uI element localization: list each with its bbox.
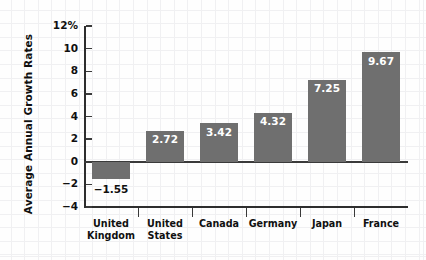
- y-axis-tick-label: 6: [38, 87, 78, 99]
- y-axis-tick-label: −2: [38, 177, 78, 189]
- y-axis-tick-mark: [86, 161, 92, 162]
- y-axis-tick-mark: [86, 71, 92, 72]
- y-axis-tick-label: −4: [38, 200, 78, 212]
- x-axis-tick-mark: [246, 208, 247, 217]
- y-axis-tick-label: 10: [38, 42, 78, 54]
- x-axis-category-label: United Kingdom: [84, 218, 138, 243]
- bar-value-label: 3.42: [192, 126, 246, 138]
- y-axis-tick-mark: [86, 25, 92, 26]
- bar-value-label: 2.72: [138, 133, 192, 145]
- zero-baseline: [84, 161, 408, 162]
- y-axis-tick-mark: [86, 138, 92, 139]
- x-axis-tick-mark: [192, 208, 193, 217]
- x-axis-category-label: United States: [138, 218, 192, 243]
- bar-value-label: 4.32: [246, 115, 300, 127]
- y-axis-tick-label: 0: [38, 155, 78, 167]
- y-axis-tick-label: 4: [38, 110, 78, 122]
- x-axis-category-label: Japan: [300, 218, 354, 230]
- chart-figure: Average Annual Growth Rates 12%1086420−2…: [0, 0, 426, 260]
- x-axis-tick-mark: [300, 208, 301, 217]
- bar-value-label: −1.55: [84, 183, 138, 195]
- bar-value-label: 7.25: [300, 82, 354, 94]
- y-axis-tick-mark: [86, 116, 92, 117]
- y-axis-tick-label: 2: [38, 132, 78, 144]
- y-axis-title: Average Annual Growth Rates: [22, 19, 36, 229]
- y-axis-tick-mark: [86, 206, 92, 207]
- y-axis-tick-label: 12%: [38, 19, 78, 31]
- y-axis-tick-label: 8: [38, 64, 78, 76]
- y-axis-tick-mark: [86, 93, 92, 94]
- x-axis-category-label: Germany: [246, 218, 300, 230]
- y-axis-tick-mark: [86, 48, 92, 49]
- x-axis-tick-mark: [354, 208, 355, 217]
- y-axis-tick-label-group: 12%1086420−2−4: [36, 0, 78, 260]
- bar[interactable]: [362, 52, 400, 161]
- x-axis-category-label: Canada: [192, 218, 246, 230]
- bar-value-label: 9.67: [354, 55, 408, 67]
- bar[interactable]: [92, 162, 130, 180]
- x-axis-tick-mark: [138, 208, 139, 217]
- x-axis-category-label: France: [354, 218, 408, 230]
